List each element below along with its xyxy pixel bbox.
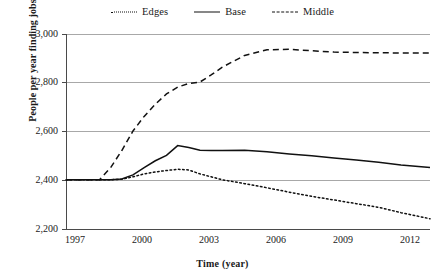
plot-area: 2,2002,4002,6002,8003,000 19972000200320… <box>0 0 445 278</box>
data-series <box>66 49 430 218</box>
series-line-middle <box>66 49 430 179</box>
y-tick-label: 2,400 <box>12 175 58 185</box>
y-tick-label: 2,600 <box>12 126 58 136</box>
x-tick-label: 2012 <box>400 235 420 245</box>
x-tick-label: 2009 <box>333 235 353 245</box>
x-tick-label: 2000 <box>132 235 152 245</box>
y-tick-label: 2,200 <box>12 224 58 234</box>
x-tick-label: 1997 <box>65 235 85 245</box>
series-line-edges <box>66 169 430 218</box>
gridlines <box>66 35 430 230</box>
x-axis-title: Time (year) <box>0 258 445 269</box>
chart-root: Edges Base Middle People per year findin… <box>0 0 445 278</box>
tick-marks <box>62 35 66 230</box>
y-tick-label: 2,800 <box>12 77 58 87</box>
x-tick-label: 2006 <box>266 235 286 245</box>
y-tick-label: 3,000 <box>12 29 58 39</box>
x-tick-label: 2003 <box>199 235 219 245</box>
series-line-base <box>66 146 430 180</box>
